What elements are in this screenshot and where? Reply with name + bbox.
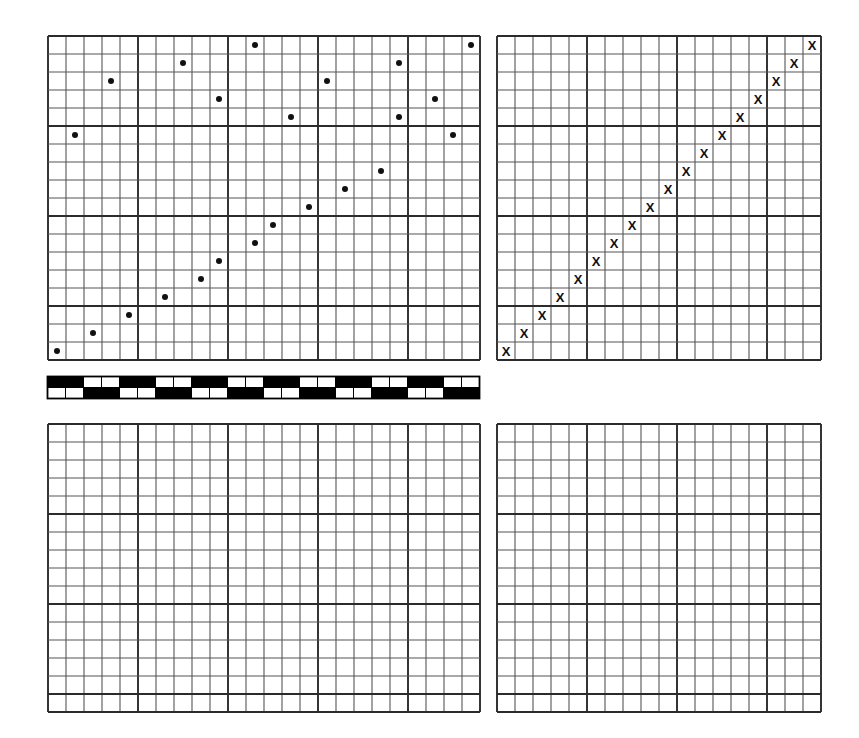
data-point-dot[interactable] [270,222,276,228]
grid-lines [48,424,480,712]
checker-cell [408,388,426,399]
checker-cell [48,388,66,399]
data-point-dot[interactable] [396,60,402,66]
checker-cell [48,377,66,388]
checker-cell [102,388,120,399]
checker-cell [84,388,102,399]
checker-cell [336,388,354,399]
checker-cell [426,388,444,399]
data-point-cross[interactable]: X [520,326,529,341]
data-point-dot[interactable] [216,96,222,102]
checker-cell [120,377,138,388]
data-point-cross[interactable]: X [682,164,691,179]
checker-cell [282,388,300,399]
checker-cell [354,388,372,399]
panel-top-left[interactable] [46,34,482,362]
data-point-dot[interactable] [450,132,456,138]
data-point-dot[interactable] [396,114,402,120]
data-point-cross[interactable]: X [664,182,673,197]
checker-cell [84,377,102,388]
data-point-dot[interactable] [126,312,132,318]
data-point-cross[interactable]: X [736,110,745,125]
checker-cell [246,377,264,388]
data-point-dot[interactable] [324,78,330,84]
checker-cell [228,377,246,388]
checker-cell [444,388,462,399]
data-point-cross[interactable]: X [700,146,709,161]
checker-cell [174,377,192,388]
checker-cell [210,388,228,399]
checker-cells [48,377,480,399]
data-point-dot[interactable] [216,258,222,264]
data-point-cross[interactable]: X [538,308,547,323]
checker-cell [318,388,336,399]
data-point-dot[interactable] [162,294,168,300]
checker-cell [264,377,282,388]
data-point-dot[interactable] [108,78,114,84]
data-point-dot[interactable] [90,330,96,336]
checker-cell [462,377,480,388]
data-point-dot[interactable] [342,186,348,192]
figure-canvas: XXXXXXXXXXXXXXXXXX [0,0,859,738]
checker-cell [66,377,84,388]
data-point-dot[interactable] [252,42,258,48]
checker-strip [46,375,481,400]
panel-bottom-left[interactable] [46,422,482,714]
checker-cell [300,377,318,388]
data-point-cross[interactable]: X [646,200,655,215]
data-point-dot[interactable] [72,132,78,138]
checker-cell [390,388,408,399]
checker-cell [102,377,120,388]
checker-cell [354,377,372,388]
checker-cell [138,377,156,388]
checker-cell [264,388,282,399]
checker-cell [156,377,174,388]
data-point-cross[interactable]: X [610,236,619,251]
checker-cell [444,377,462,388]
data-point-dot[interactable] [54,348,60,354]
data-point-dot[interactable] [180,60,186,66]
checker-cell [210,377,228,388]
checker-cell [390,377,408,388]
grid-lines [48,36,480,360]
data-point-dot[interactable] [468,42,474,48]
data-point-cross[interactable]: X [754,92,763,107]
data-point-cross[interactable]: X [574,272,583,287]
checker-cell [192,377,210,388]
checker-cell [282,377,300,388]
data-point-cross[interactable]: X [628,218,637,233]
grid-lines [497,424,821,712]
data-point-dot[interactable] [252,240,258,246]
checker-cell [300,388,318,399]
checker-cell [156,388,174,399]
panel-top-right[interactable]: XXXXXXXXXXXXXXXXXX [495,34,823,362]
data-point-dot[interactable] [306,204,312,210]
checker-cell [336,377,354,388]
checker-cell [372,388,390,399]
data-point-cross[interactable]: X [502,344,511,359]
checker-cell [120,388,138,399]
data-point-dot[interactable] [198,276,204,282]
checker-cell [246,388,264,399]
data-point-cross[interactable]: X [718,128,727,143]
data-point-cross[interactable]: X [772,74,781,89]
checker-cell [426,377,444,388]
data-point-cross[interactable]: X [808,38,817,53]
checker-cell [318,377,336,388]
checker-cell [462,388,480,399]
data-point-cross[interactable]: X [556,290,565,305]
checker-cell [138,388,156,399]
checker-cell [408,377,426,388]
data-point-dot[interactable] [432,96,438,102]
data-point-dot[interactable] [288,114,294,120]
checker-cell [228,388,246,399]
data-point-cross[interactable]: X [592,254,601,269]
checker-cell [192,388,210,399]
checker-cell [174,388,192,399]
checker-cell [66,388,84,399]
panel-bottom-right[interactable] [495,422,823,714]
data-point-cross[interactable]: X [790,56,799,71]
checker-cell [372,377,390,388]
data-point-dot[interactable] [378,168,384,174]
